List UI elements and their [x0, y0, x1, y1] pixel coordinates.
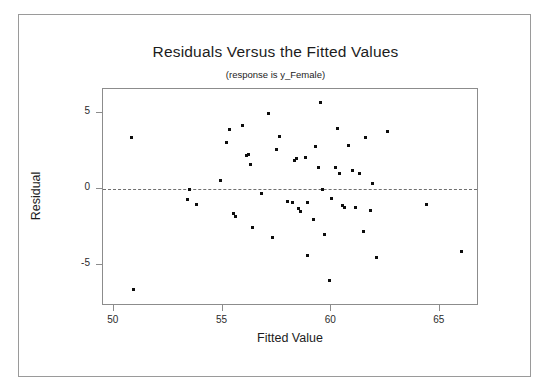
x-tick-mark — [222, 305, 223, 311]
data-point — [336, 127, 339, 130]
data-point — [271, 236, 274, 239]
x-tick-mark — [113, 305, 114, 311]
chart-title: Residuals Versus the Fitted Values — [19, 43, 532, 61]
data-point — [323, 233, 326, 236]
x-tick-label: 65 — [423, 314, 455, 325]
data-point — [132, 288, 135, 291]
y-tick-label: 0 — [58, 181, 90, 192]
data-point — [195, 203, 198, 206]
data-point — [267, 112, 270, 115]
data-point — [362, 230, 365, 233]
data-point — [306, 254, 309, 257]
y-axis-title: Residual — [29, 172, 43, 221]
data-point — [234, 215, 237, 218]
data-point — [343, 206, 346, 209]
data-point — [347, 144, 350, 147]
data-point — [328, 279, 331, 282]
data-point — [334, 166, 337, 169]
data-point — [319, 101, 322, 104]
x-tick-mark — [330, 305, 331, 311]
zero-reference-line — [103, 189, 477, 190]
data-point — [375, 256, 378, 259]
y-tick-mark — [96, 188, 102, 189]
data-point — [241, 124, 244, 127]
data-point — [371, 182, 374, 185]
data-point — [306, 201, 309, 204]
data-point — [225, 141, 228, 144]
data-point — [425, 203, 428, 206]
data-point — [369, 209, 372, 212]
data-point — [299, 210, 302, 213]
x-tick-label: 60 — [314, 314, 346, 325]
data-point — [358, 172, 361, 175]
y-tick-label: 5 — [58, 105, 90, 116]
data-point — [249, 163, 252, 166]
data-point — [286, 200, 289, 203]
data-point — [228, 128, 231, 131]
data-point — [219, 179, 222, 182]
x-tick-mark — [439, 305, 440, 311]
chart-subtitle: (response is y_Female) — [19, 69, 532, 80]
plot-area — [102, 88, 478, 305]
x-axis-title: Fitted Value — [102, 331, 478, 345]
data-point — [354, 206, 357, 209]
data-point — [338, 172, 341, 175]
data-point — [247, 153, 250, 156]
data-point — [304, 156, 307, 159]
data-point — [317, 166, 320, 169]
data-point — [386, 130, 389, 133]
chart-page: Residuals Versus the Fitted Values (resp… — [0, 0, 550, 392]
data-point — [295, 157, 298, 160]
x-tick-label: 50 — [97, 314, 129, 325]
data-point — [351, 169, 354, 172]
data-point — [364, 136, 367, 139]
x-tick-label: 55 — [206, 314, 238, 325]
y-tick-label: -5 — [58, 257, 90, 268]
y-tick-mark — [96, 264, 102, 265]
data-point — [314, 145, 317, 148]
data-point — [275, 148, 278, 151]
data-point — [330, 197, 333, 200]
data-point — [278, 135, 281, 138]
data-point — [130, 136, 133, 139]
data-point — [321, 188, 324, 191]
data-point — [460, 250, 463, 253]
data-point — [260, 192, 263, 195]
data-point — [188, 188, 191, 191]
y-tick-mark — [96, 112, 102, 113]
data-point — [251, 226, 254, 229]
data-point — [186, 198, 189, 201]
data-point — [312, 218, 315, 221]
data-point — [291, 201, 294, 204]
plot-inner — [103, 89, 477, 304]
